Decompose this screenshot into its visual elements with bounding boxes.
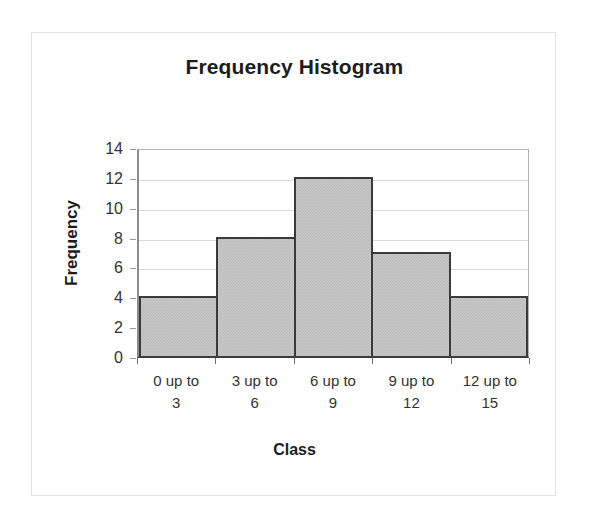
x-tick-mark: [529, 358, 530, 364]
x-tick-mark: [137, 358, 138, 364]
histogram-bar: [294, 177, 373, 356]
y-tick-mark: [130, 358, 136, 359]
x-axis-title: Class: [32, 441, 557, 459]
x-tick-mark: [372, 358, 373, 364]
x-axis-labels: 0 up to33 up to66 up to99 up to1212 up t…: [137, 370, 529, 414]
x-tick-label: 6 up to9: [294, 370, 372, 414]
chart-title: Frequency Histogram: [32, 55, 557, 79]
y-tick-label: 8: [53, 231, 123, 247]
x-tick-label-line: 12: [372, 392, 450, 414]
x-tick-label: 12 up to15: [451, 370, 529, 414]
x-tick-label: 0 up to3: [137, 370, 215, 414]
y-tick-mark: [130, 209, 136, 210]
x-tick-label-line: 6: [215, 392, 293, 414]
x-tick-label-line: 15: [451, 392, 529, 414]
x-tick-label-line: 3: [137, 392, 215, 414]
x-tick-label-line: 9 up to: [372, 370, 450, 392]
x-tick-label-line: 3 up to: [215, 370, 293, 392]
y-tick-label: 4: [53, 290, 123, 306]
x-tick-mark: [451, 358, 452, 364]
y-tick-label: 10: [53, 201, 123, 217]
histogram-bar: [216, 237, 295, 356]
y-tick-label: 0: [53, 350, 123, 366]
x-tick-mark: [294, 358, 295, 364]
x-tick-label-line: 6 up to: [294, 370, 372, 392]
x-tick-label: 9 up to12: [372, 370, 450, 414]
y-tick-mark: [130, 239, 136, 240]
histogram-bar: [371, 252, 450, 357]
y-tick-mark: [130, 328, 136, 329]
histogram-bar: [139, 296, 218, 356]
histogram-bars: [139, 150, 528, 356]
plot-area: [137, 149, 529, 358]
histogram-bar: [449, 296, 528, 356]
y-tick-label: 12: [53, 171, 123, 187]
y-tick-mark: [130, 298, 136, 299]
y-tick-label: 14: [53, 141, 123, 157]
x-tick-label-line: 12 up to: [451, 370, 529, 392]
y-tick-label: 2: [53, 320, 123, 336]
x-tick-label-line: 0 up to: [137, 370, 215, 392]
y-tick-mark: [130, 149, 136, 150]
x-axis-ticks: [137, 358, 529, 364]
x-tick-mark: [215, 358, 216, 364]
x-tick-label-line: 9: [294, 392, 372, 414]
x-tick-label: 3 up to6: [215, 370, 293, 414]
y-tick-label: 6: [53, 260, 123, 276]
y-tick-mark: [130, 268, 136, 269]
chart-frame: Frequency Histogram Frequency 0246810121…: [31, 32, 556, 496]
y-tick-mark: [130, 179, 136, 180]
